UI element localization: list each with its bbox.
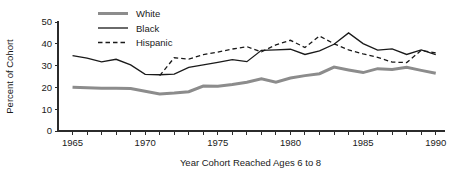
y-tick-label: 30	[41, 60, 52, 71]
y-tick-label: 40	[41, 38, 52, 49]
x-tick-label: 1965	[62, 137, 83, 148]
y-axis: 01020304050	[41, 16, 58, 136]
x-axis: 196519701975198019851990	[58, 131, 446, 148]
chart-legend: WhiteBlackHispanic	[98, 8, 173, 48]
x-tick-label: 1990	[425, 137, 446, 148]
x-tick-label: 1975	[207, 137, 228, 148]
legend-label-hispanic: Hispanic	[136, 37, 173, 48]
chart-container: 01020304050 196519701975198019851990 Whi…	[0, 0, 461, 176]
y-axis-title: Percent of Cohort	[4, 39, 15, 114]
series-line-white	[73, 67, 436, 94]
y-tick-label: 10	[41, 104, 52, 115]
series-lines	[73, 33, 436, 94]
y-tick-label: 20	[41, 82, 52, 93]
x-tick-label: 1980	[280, 137, 301, 148]
x-tick-label: 1970	[135, 137, 156, 148]
legend-label-black: Black	[136, 23, 159, 34]
y-tick-label: 0	[47, 125, 52, 136]
x-tick-label: 1985	[353, 137, 374, 148]
x-axis-title: Year Cohort Reached Ages 6 to 8	[180, 157, 321, 168]
y-tick-label: 50	[41, 16, 52, 27]
legend-label-white: White	[136, 8, 160, 19]
line-chart: 01020304050 196519701975198019851990 Whi…	[0, 0, 461, 176]
